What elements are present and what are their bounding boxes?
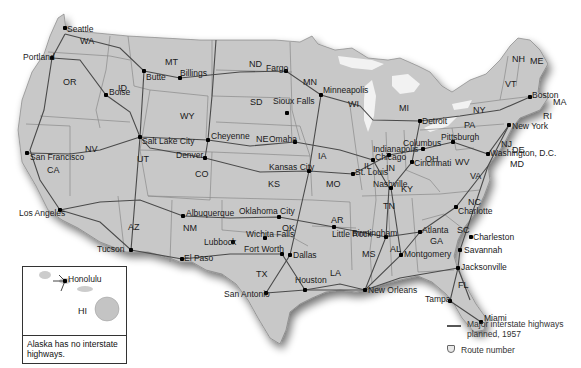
state-label: LA — [330, 269, 341, 278]
state-label: NM — [183, 224, 197, 233]
city-label: San Antonio — [224, 290, 270, 299]
state-label: MO — [326, 180, 341, 189]
city-label: Tucson — [97, 245, 125, 254]
city-label: Lubbock — [204, 238, 236, 247]
city-label: Fargo — [266, 64, 288, 73]
city-label: Savannah — [464, 246, 502, 255]
state-label: SD — [250, 98, 263, 107]
city-label: Cheyenne — [211, 132, 250, 141]
city-dot — [25, 151, 29, 155]
state-label: VT — [505, 80, 517, 89]
state-label: IA — [318, 152, 327, 161]
city-label: Billings — [180, 69, 207, 78]
state-label: PA — [464, 121, 475, 130]
city-label: Nashville — [373, 180, 408, 189]
city-label: Boise — [109, 88, 130, 97]
city-label: Denver — [176, 151, 203, 160]
state-label: AZ — [128, 223, 140, 232]
city-label: Sioux Falls — [273, 97, 315, 106]
city-label: New Orleans — [368, 286, 417, 295]
state-label: MS — [362, 250, 376, 259]
city-label: Tampa — [425, 295, 451, 304]
city-label: Omaha — [269, 135, 297, 144]
state-label: NH — [512, 55, 525, 64]
city-label: Washington, D.C. — [490, 149, 556, 158]
city-honolulu: Honolulu — [68, 275, 102, 284]
city-label: Dallas — [293, 251, 317, 260]
city-dot — [458, 248, 462, 252]
city-dot — [203, 156, 207, 160]
state-label: MT — [165, 58, 178, 67]
state-label: RI — [543, 112, 552, 121]
city-label: New York — [512, 122, 548, 131]
city-dot — [456, 266, 460, 270]
city-label: Columbus — [403, 139, 441, 148]
state-label: UT — [137, 155, 149, 164]
city-dot — [181, 214, 185, 218]
city-label: Portland — [23, 53, 55, 62]
city-label: Los Angeles — [19, 209, 65, 218]
city-label: Charlotte — [458, 207, 493, 216]
state-label: ME — [530, 57, 544, 66]
shield-icon — [447, 345, 455, 353]
state-hi: HI — [78, 307, 87, 316]
city-label: Jacksonville — [461, 263, 507, 272]
city-dot — [288, 253, 292, 257]
line-icon — [447, 325, 461, 327]
city-label: Houston — [295, 276, 327, 285]
city-label: Butte — [146, 73, 166, 82]
state-label: TN — [383, 202, 395, 211]
city-dot — [399, 253, 403, 257]
city-label: Minneapolis — [323, 86, 368, 95]
city-dot — [507, 123, 511, 127]
city-label: Detroit — [422, 117, 447, 126]
city-label: Atlanta — [422, 226, 448, 235]
city-label: St. Louis — [355, 168, 388, 177]
city-dot — [363, 288, 367, 292]
state-label: MI — [399, 104, 409, 113]
city-dot — [129, 248, 133, 252]
city-label: Kansas City — [269, 163, 314, 172]
state-label: NE — [256, 135, 269, 144]
legend-route: Route number — [447, 345, 567, 355]
honolulu-dot — [63, 279, 67, 283]
city-dot — [206, 138, 210, 142]
city-label: Oklahoma City — [239, 207, 295, 216]
city-label: El Paso — [184, 254, 213, 263]
state-label: MD — [510, 160, 524, 169]
city-label: Montgomery — [404, 250, 451, 259]
state-label: SC — [457, 226, 470, 235]
city-dot — [303, 288, 307, 292]
state-label: NV — [85, 145, 98, 154]
city-label: Fort Worth — [244, 245, 284, 254]
city-label: Albuquerque — [186, 209, 234, 218]
state-label: ND — [249, 60, 262, 69]
state-label: WA — [80, 37, 94, 46]
state-label: WI — [348, 100, 359, 109]
alaska-note: Alaska has no interstate highways. — [23, 335, 126, 363]
city-label: Charleston — [473, 233, 514, 242]
state-label: VA — [470, 172, 481, 181]
city-dot — [285, 111, 289, 115]
city-label: Pittsburgh — [441, 133, 479, 142]
city-label: Salt Lake City — [142, 137, 194, 146]
state-label: CO — [195, 170, 209, 179]
city-label: Seattle — [67, 25, 93, 34]
city-label: Boston — [532, 91, 558, 100]
state-label: TX — [256, 270, 268, 279]
hawaii-inset: Honolulu HI Alaska has no interstate hig… — [22, 266, 127, 364]
state-label: FL — [458, 281, 469, 290]
state-label: WV — [455, 158, 470, 167]
city-label: Cincinnati — [414, 159, 451, 168]
city-label: Wichita Falls — [246, 230, 294, 239]
state-label: KS — [268, 180, 280, 189]
state-label: CA — [47, 166, 60, 175]
city-label: Birmingham — [352, 229, 397, 238]
state-label: AR — [331, 216, 344, 225]
state-label: GA — [430, 237, 443, 246]
state-label: NY — [473, 106, 486, 115]
legend-highway: Major interstate highways planned, 1957 — [447, 320, 567, 340]
city-dot — [104, 93, 108, 97]
state-label: MN — [303, 78, 317, 87]
state-label: OR — [63, 78, 77, 87]
